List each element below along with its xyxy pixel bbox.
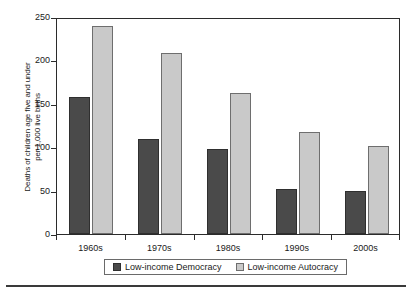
bar-2000s-autocracy [368,146,389,234]
legend-entry-autocracy: Low-income Autocracy [236,262,339,272]
x-tick-label-1960s: 1960s [60,243,120,253]
legend-label: Low-income Autocracy [248,262,339,272]
chart-figure: Deaths of children age five and under pe… [0,0,412,296]
y-tick-label: 250 [16,13,50,22]
x-tick-label-1990s: 1990s [267,243,327,253]
y-tick-label: 200 [16,56,50,65]
y-tick-label: 150 [16,100,50,109]
y-axis-title-line-1: Deaths of children age five and under [23,18,33,235]
y-tick-label: 50 [16,187,50,196]
light-swatch-icon [236,263,244,271]
bar-2000s-democracy [345,191,366,234]
x-tick-mark [125,235,126,240]
bottom-divider [6,285,406,287]
bar-1980s-democracy [207,149,228,234]
legend-label: Low-income Democracy [125,262,222,272]
bar-1960s-autocracy [92,26,113,234]
bar-1990s-autocracy [299,132,320,234]
x-tick-label-1980s: 1980s [198,243,258,253]
x-tick-label-1970s: 1970s [129,243,189,253]
y-tick-label: 100 [16,143,50,152]
legend-entry-democracy: Low-income Democracy [113,262,222,272]
plot-area [56,18,400,235]
bar-1960s-democracy [69,97,90,234]
bar-1990s-democracy [276,189,297,234]
dark-swatch-icon [113,263,121,271]
bar-1980s-autocracy [230,93,251,234]
bar-1970s-autocracy [161,53,182,234]
x-tick-mark [56,235,57,240]
x-tick-mark [194,235,195,240]
x-tick-mark [399,235,400,240]
x-tick-label-2000s: 2000s [336,243,396,253]
chart-legend: Low-income DemocracyLow-income Autocracy [104,259,347,275]
y-axis-title-line-2: per 1,000 live births [33,18,43,235]
bar-1970s-democracy [138,139,159,234]
y-axis-title: Deaths of children age five and under pe… [18,18,48,235]
y-tick-label: 0 [16,230,50,239]
x-tick-mark [331,235,332,240]
x-tick-mark [262,235,263,240]
